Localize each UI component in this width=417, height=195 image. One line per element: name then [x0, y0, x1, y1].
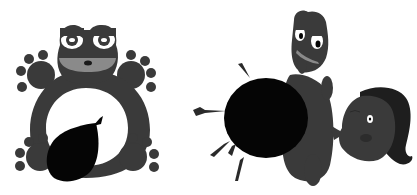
woman-face [339, 96, 395, 162]
frog-figure [15, 25, 159, 181]
woman-figure [339, 87, 412, 164]
woman-cheek [360, 134, 372, 142]
right-balloon [224, 78, 308, 158]
illustration-canvas: Frog holding a black balloon Creature pr… [0, 0, 417, 195]
frog-nose [84, 61, 92, 66]
